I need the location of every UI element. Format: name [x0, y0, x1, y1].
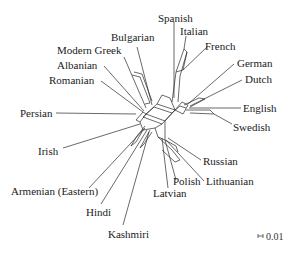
taxon-label-latvian: Latvian [153, 187, 187, 199]
taxon-label-english: English [243, 102, 277, 114]
core-bottom [155, 121, 165, 140]
germanic-box [184, 98, 205, 107]
taxon-label-modern-greek: Modern Greek [57, 44, 121, 56]
taxon-label-swedish: Swedish [233, 121, 270, 133]
edge-dutch [190, 80, 242, 106]
taxon-label-german: German [237, 57, 272, 69]
taxon-label-dutch: Dutch [245, 73, 272, 85]
edge-kashmiri [123, 132, 149, 225]
taxon-label-hindi: Hindi [86, 206, 111, 218]
edge-russian [168, 138, 201, 160]
taxon-label-lithuanian: Lithuanian [206, 175, 254, 187]
core-box-2 [143, 107, 172, 124]
edge-bulgarian [137, 47, 152, 105]
taxon-label-romanian: Romanian [49, 74, 94, 86]
taxon-label-albanian: Albanian [57, 59, 97, 71]
taxon-label-italian: Italian [180, 25, 208, 37]
balkan-box [132, 75, 150, 104]
germanic-box-2 [186, 110, 214, 114]
taxon-label-french: French [205, 40, 236, 52]
edge-swedish [214, 114, 232, 124]
taxon-label-bulgarian: Bulgarian [111, 31, 154, 43]
romance-box-2 [176, 52, 187, 72]
taxon-label-armenian: Armenian (Eastern) [11, 185, 98, 197]
edge-irish [63, 124, 140, 148]
edge-persian [56, 113, 136, 114]
scale-bar-label: 0.01 [266, 231, 284, 243]
taxon-label-irish: Irish [38, 145, 58, 157]
taxon-label-russian: Russian [203, 155, 238, 167]
edge-french [183, 47, 207, 70]
edge-hindi [101, 130, 147, 204]
edge-german [188, 64, 234, 104]
slavic-box [158, 137, 180, 162]
taxon-label-kashmiri: Kashmiri [108, 228, 149, 240]
edge-italian [184, 36, 186, 49]
taxon-label-polish: Polish [173, 175, 201, 187]
taxon-label-spanish: Spanish [158, 12, 193, 24]
taxon-label-persian: Persian [20, 107, 52, 119]
